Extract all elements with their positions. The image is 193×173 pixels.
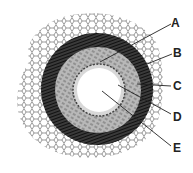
label-c: C [173, 80, 182, 92]
label-d: D [173, 111, 182, 123]
label-e: E [173, 142, 181, 154]
label-b: B [173, 47, 182, 59]
artery-cross-section-diagram [0, 0, 193, 173]
label-a: A [171, 17, 180, 29]
lumen [77, 68, 121, 112]
